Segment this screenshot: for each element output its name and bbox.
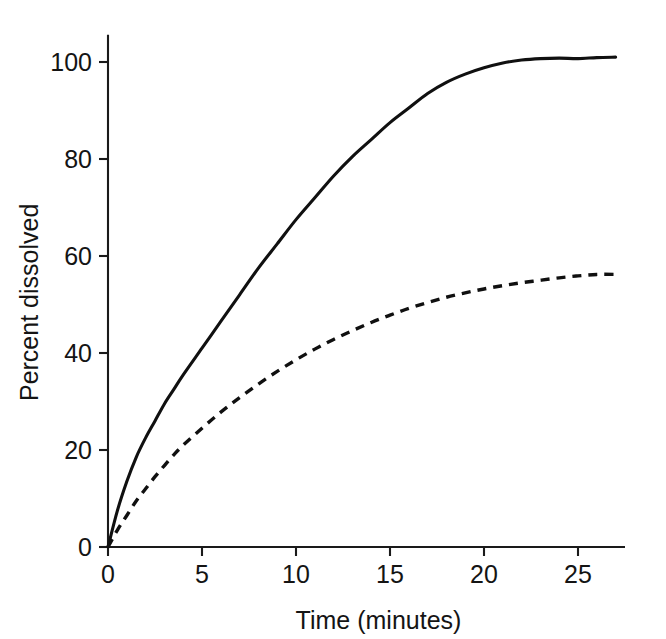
x-tick-label: 5	[195, 560, 209, 588]
x-tick-label: 10	[282, 560, 310, 588]
data-series-layer	[108, 57, 616, 547]
y-axis-tick-labels: 020406080100	[50, 48, 92, 561]
series-line-solid-curve	[108, 57, 616, 547]
x-tick-label: 15	[376, 560, 404, 588]
series-line-dashed-curve	[108, 274, 616, 547]
y-tick-label: 80	[64, 145, 92, 173]
x-tick-label: 20	[470, 560, 498, 588]
x-axis-title: Time (minutes)	[296, 606, 462, 634]
x-axis-tick-labels: 0510152025	[101, 560, 592, 588]
chart-figure: 020406080100 0510152025 Time (minutes) P…	[0, 0, 666, 639]
y-tick-label: 0	[78, 533, 92, 561]
y-tick-label: 60	[64, 242, 92, 270]
y-axis-ticks	[99, 62, 108, 547]
y-axis-title: Percent dissolved	[15, 204, 43, 401]
x-axis-ticks	[108, 547, 578, 556]
y-tick-label: 100	[50, 48, 92, 76]
y-tick-label: 20	[64, 436, 92, 464]
x-tick-label: 25	[564, 560, 592, 588]
plot-canvas: 020406080100 0510152025 Time (minutes) P…	[0, 0, 666, 639]
x-tick-label: 0	[101, 560, 115, 588]
y-tick-label: 40	[64, 339, 92, 367]
